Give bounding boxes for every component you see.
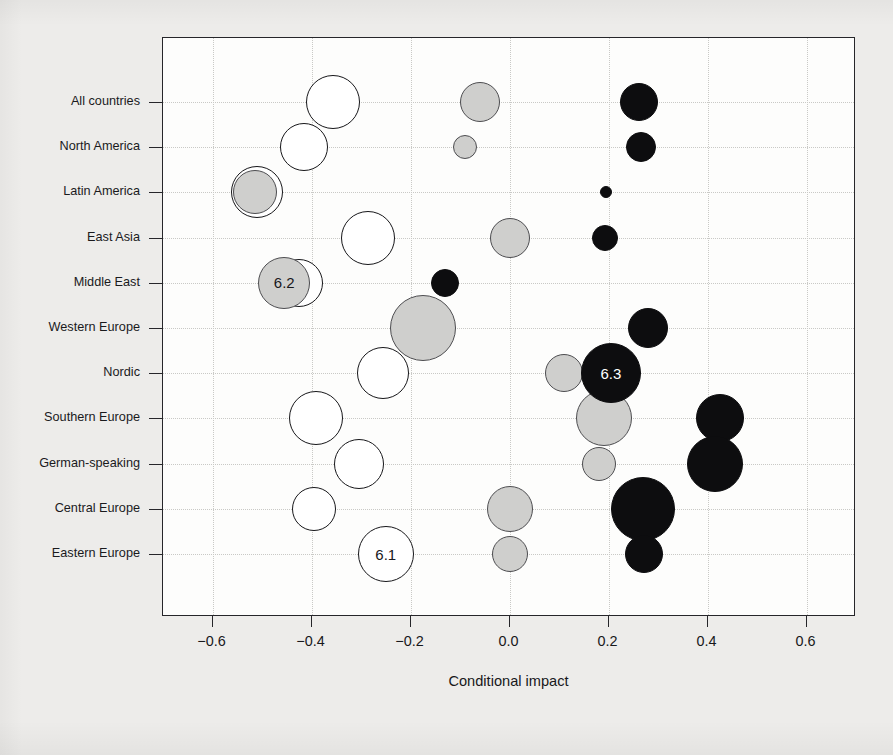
bubble-white-north-america [280,123,328,171]
y-axis-label-middle-east: Middle East [74,275,140,289]
y-axis-label-east-asia: East Asia [87,230,140,244]
gridline-horizontal [163,464,854,465]
bubble-gray-middle-east: 6.2 [258,257,310,309]
gridline-horizontal [163,373,854,374]
y-axis-label-western-europe: Western Europe [49,320,140,334]
x-axis-label-6: 0.6 [795,633,815,649]
bubble-white-east-asia [341,211,395,265]
x-axis-label-0: −0.6 [197,633,225,649]
gridline-vertical [807,38,808,615]
y-axis-label-eastern-europe: Eastern Europe [52,546,140,560]
bubble-value-label: 6.2 [274,275,295,290]
x-axis-label-5: 0.4 [696,633,716,649]
bubble-gray-eastern-europe [492,536,528,572]
y-tick-middle-east [149,283,162,284]
bubble-gray-latin-america [233,170,277,214]
y-tick-southern-europe [149,418,162,419]
bubble-black-north-america [626,132,656,162]
bubble-black-central-europe [611,477,675,541]
gridline-horizontal [163,418,854,419]
x-tick-2 [410,616,411,627]
gridline-vertical [213,38,214,615]
bubble-gray-german-speaking [582,447,616,481]
y-axis-label-german-speaking: German-speaking [39,456,140,470]
y-axis-label-group: All countriesNorth AmericaLatin AmericaE… [0,0,144,579]
x-tick-6 [806,616,807,627]
bubble-gray-east-asia [490,218,530,258]
y-tick-nordic [149,373,162,374]
gridline-vertical [708,38,709,615]
bubble-black-eastern-europe [625,535,663,573]
figure-bubble-chart: All countriesNorth AmericaLatin AmericaE… [0,0,893,755]
x-tick-0 [212,616,213,627]
x-tick-5 [707,616,708,627]
gridline-horizontal [163,328,854,329]
y-tick-eastern-europe [149,554,162,555]
x-tick-4 [608,616,609,627]
y-tick-western-europe [149,328,162,329]
bubble-value-label: 6.1 [375,547,396,562]
gridline-vertical [609,38,610,615]
bubble-black-western-europe [628,308,668,348]
y-axis-label-nordic: Nordic [103,365,140,379]
bubble-gray-all-countries [460,82,500,122]
plot-area: 6.16.26.3 [162,37,855,616]
x-axis-label-2: −0.2 [395,633,423,649]
y-axis-label-latin-america: Latin America [63,184,140,198]
y-tick-north-america [149,147,162,148]
x-tick-3 [509,616,510,627]
y-axis-label-north-america: North America [60,139,140,153]
bubble-black-all-countries [620,83,658,121]
bubble-white-all-countries [306,75,360,129]
bubble-white-central-europe [292,487,336,531]
y-axis-label-all-countries: All countries [71,94,140,108]
x-axis-title: Conditional impact [162,673,855,689]
bubble-white-nordic [357,347,409,399]
bubble-gray-nordic [545,354,583,392]
y-tick-latin-america [149,192,162,193]
y-axis-label-central-europe: Central Europe [55,501,140,515]
y-tick-east-asia [149,238,162,239]
bubble-white-german-speaking [334,439,384,489]
bubble-white-eastern-europe: 6.1 [358,526,414,582]
bubble-gray-western-europe [390,295,456,361]
y-tick-central-europe [149,509,162,510]
y-tick-all-countries [149,102,162,103]
bubble-gray-central-europe [487,486,533,532]
bubble-black-nordic: 6.3 [581,343,641,403]
x-tick-group: −0.6−0.4−0.20.00.20.40.6 [162,616,855,627]
x-tick-1 [311,616,312,627]
bubble-white-southern-europe [289,391,343,445]
bubble-value-label: 6.3 [601,366,622,381]
x-axis-label-4: 0.2 [597,633,617,649]
bubble-black-german-speaking [687,436,743,492]
bubble-black-east-asia [592,225,618,251]
y-tick-german-speaking [149,464,162,465]
gridline-horizontal [163,102,854,103]
gridline-horizontal [163,147,854,148]
bubble-black-latin-america [600,186,612,198]
x-axis-label-1: −0.4 [296,633,324,649]
bubble-black-middle-east [431,269,459,297]
bubble-gray-north-america [453,135,477,159]
y-axis-label-southern-europe: Southern Europe [44,410,140,424]
x-axis-label-3: 0.0 [498,633,518,649]
